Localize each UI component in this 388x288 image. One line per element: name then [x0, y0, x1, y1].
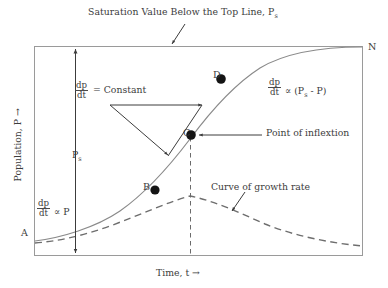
exponential-proportionality-annotation: ∝ P [54, 206, 70, 217]
x-axis-title: Time, t → [156, 268, 200, 278]
figure-title: Saturation Value Below the Top Line, Ps [88, 7, 278, 20]
figure-title-subscript: s [274, 12, 277, 20]
derivative-fraction-constant: dp dt [75, 81, 88, 100]
logistic-growth-figure: Saturation Value Below the Top Line, Ps … [0, 0, 388, 288]
point-marker-b [150, 185, 159, 194]
figure-canvas [0, 0, 388, 288]
derivative-fraction-saturation: dp dt [268, 78, 281, 97]
constant-annotation: = Constant [93, 85, 146, 95]
constant-leader-diagonal [110, 105, 168, 155]
plot-frame [35, 47, 363, 256]
saturation-proportionality-annotation: ∝ (Ps - P) [285, 85, 326, 99]
fraction-numerator: dp [75, 81, 88, 90]
fraction-denominator: dt [75, 90, 88, 100]
growth-rate-curve [35, 196, 362, 246]
fraction-denominator: dt [268, 87, 281, 97]
fraction-numerator: dp [268, 78, 281, 87]
point-label-d: D [213, 70, 221, 80]
saturation-proportionality-head: ∝ (P [285, 85, 304, 96]
fraction-numerator: dp [37, 199, 50, 208]
saturation-value-subscript: s [78, 155, 81, 163]
title-leader-arrow [172, 24, 185, 44]
saturation-value-label: Ps [72, 150, 82, 163]
population-curve [35, 47, 362, 241]
fraction-denominator: dt [37, 208, 50, 218]
point-label-n: N [368, 42, 376, 52]
point-label-b: B [143, 182, 150, 192]
saturation-proportionality-tail: - P) [307, 85, 326, 96]
y-axis-title: Population, P → [13, 85, 23, 205]
figure-title-text: Saturation Value Below the Top Line, P [88, 6, 274, 17]
point-label-c: C [183, 128, 190, 138]
inflexion-annotation: Point of inflextion [266, 128, 349, 138]
derivative-fraction-exponential: dp dt [37, 199, 50, 218]
growth-rate-curve-annotation: Curve of growth rate [211, 182, 310, 192]
growth-curve-leader-arrow [232, 192, 245, 211]
point-label-a: A [21, 228, 28, 238]
